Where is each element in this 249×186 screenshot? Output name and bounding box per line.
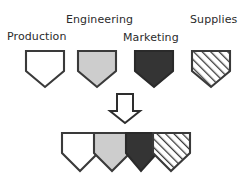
diagram-canvas: Production Engineering Marketing Supplie…: [0, 0, 249, 186]
shield-supplies[interactable]: [190, 49, 232, 89]
combined-shield-production[interactable]: [62, 133, 98, 171]
label-supplies: Supplies: [190, 13, 237, 26]
shield-production[interactable]: [24, 49, 66, 89]
shield-engineering[interactable]: [76, 49, 118, 89]
down-arrow-icon: [107, 93, 143, 125]
combined-shields[interactable]: [60, 131, 192, 177]
shield-marketing[interactable]: [133, 49, 175, 89]
label-engineering: Engineering: [66, 13, 133, 26]
label-marketing: Marketing: [123, 31, 179, 44]
label-production: Production: [7, 30, 67, 43]
combined-shield-supplies[interactable]: [153, 133, 190, 171]
combined-shield-engineering[interactable]: [94, 133, 130, 171]
